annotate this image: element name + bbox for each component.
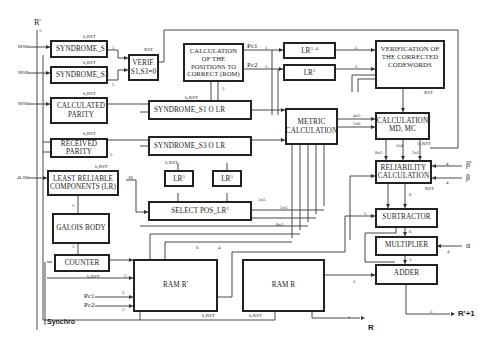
bus-width-label: 5 [222,86,225,91]
beta-label: β [466,173,470,182]
h-rst-label: h,RST [165,160,178,165]
bus-width-label: 5 [112,45,115,50]
bus-width-label: 6 [409,192,412,197]
pc2-input-label: Pc2 [84,301,95,309]
bus-width-label: 5 [112,82,115,87]
bus-width-label: 5x6 [353,121,361,126]
msb-label-3: MSB [18,101,29,106]
bus-width-label: 4 [446,180,449,185]
beta-prime-label: β' [466,160,472,169]
bus-width-label: 5 [122,307,125,312]
lr-3-right-label: LR3 [221,174,233,184]
bus-width-label: 5 [122,290,125,295]
bus-width-label: 5 [124,273,127,278]
calculated-parity-label: CALCULATED PARITY [56,102,106,119]
bus-width-label: 5 [72,203,75,208]
calculated-parity-block: CALCULATED PARITY [50,97,108,124]
rst-label: RST [144,47,153,52]
syndrome-s3-o-lr-label: SYNDROME_S3 O LR [154,142,225,150]
least-reliable-components-block: LEAST RELIABLE COMPONENTS (LR) [47,170,119,196]
lr-3plus4-block: LR3+4 [283,42,336,59]
verif-block: VERIF. S1,S3=0 [128,54,159,81]
r-output-label: R [368,323,374,332]
bus-width-label: 5 [364,211,367,216]
multiplier-label: MULTIPLIER [385,241,428,249]
r-prime-input-label: R' [34,18,41,27]
calculation-md-mc-label: CALCULATION MD, MC [377,117,428,134]
least-reliable-label: LEAST RELIABLE COMPONENTS (LR) [49,175,117,192]
syndrome-s1-block: SYNDROME_S1 [50,40,108,58]
bus-width-label: 6 [196,245,199,250]
bus-width-label: 5 [353,279,356,284]
lr-3-left-label: LR3 [173,174,185,184]
pc1-input-label: Pc1 [84,292,95,300]
pc1-output-label: Pc1 [247,42,258,50]
syndrome-s3-o-lr-block: SYNDROME_S3 O LR [148,136,252,156]
syndrome-s1-o-lr-label: SYNDROME_S1 O LR [154,106,225,114]
bus-width-label: 8x5 [375,150,383,155]
counter-block: COUNTER [54,254,110,272]
h-rst-label: h,RST [83,91,96,96]
lr-3-left-block: LR3 [164,170,194,187]
h-rst-label: h,RST [185,95,198,100]
synchro-label: Synchro [47,318,75,325]
select-pos-lr-label: SELECT POS_LR3 [171,206,229,216]
calculation-md-mc-block: CALCULATION MD, MC [375,112,430,140]
syndrome-s3-label: SYNDROME_S3 [56,71,109,79]
lr-3plus4-label: LR3+4 [301,46,318,56]
reliability-calculation-label: RELIABILITY CALCULATION [377,164,430,181]
msb-label-2: MSB [18,70,29,75]
lr-3-top-block: LR3 [283,64,336,81]
galois-body-block: GALOIS BODY [52,213,110,244]
h-rst-label: h,RST [95,164,108,169]
bus-width-label: 5 [355,64,358,69]
bus-width-label: 5 [39,28,42,33]
syndrome-s1-o-lr-block: SYNDROME_S1 O LR [148,100,252,120]
bus-width-label: 4 [447,249,450,254]
h-rst-label: h,RST [83,131,96,136]
calc-positions-rom-block: CALCULATION OF THE POSITIONS TO CORRECT … [183,43,244,82]
bus-width-label: 5 [348,315,351,320]
ram-r-label: RAM R [272,281,295,289]
bus-width-label: 5x5 [258,197,266,202]
msb-label-1: MSB [18,44,29,49]
bus-width-label: 5 [110,152,113,157]
syndrome-s3-block: SYNDROME_S3 [50,66,108,84]
bus-width-label: 4 [218,245,221,250]
rst-label: RST [425,186,434,191]
bus-width-label: 36 [128,175,133,180]
lsb-label: 4LSB [17,175,29,180]
bus-width-label: 2x5 [412,150,420,155]
calc-positions-label: CALCULATION OF THE POSITIONS TO CORRECT … [185,47,242,77]
metric-calculation-label: METRIC CALCULATION [286,118,337,135]
verification-codewords-label: VERIFICATION OF THE CORRECTED CODEWORDS [377,45,443,68]
h-rst-label: h,RST [83,34,96,39]
received-parity-block: RECEIVED PARITY [50,138,108,158]
ram-r-prime-block: RAM R' [133,259,218,312]
h-rst-label: h,RST [202,313,215,318]
subtractor-block: SUBTRACTOR [375,208,438,228]
adder-label: ADDER [394,269,419,277]
verification-codewords-block: VERIFICATION OF THE CORRECTED CODEWORDS [375,40,445,89]
h-rst-label: h,RST [83,60,96,65]
alpha-label: α [466,241,470,250]
adder-block: ADDER [375,264,438,285]
h-rst-label: h,RST [249,313,262,318]
bus-width-label: 5 [265,64,268,69]
bus-width-label: 5x5 [280,205,288,210]
received-parity-label: RECEIVED PARITY [52,140,106,157]
bus-width-label: 6 [409,229,412,234]
bus-width-label: 8x2 [276,222,284,227]
counter-label: COUNTER [65,259,100,267]
reliability-calculation-block: RELIABILITY CALCULATION [375,160,432,184]
metric-calculation-block: METRIC CALCULATION [285,108,338,145]
select-pos-lr-block: SELECT POS_LR3 [148,201,252,221]
bus-width-label: 4 [446,161,449,166]
rst-label: RST [424,90,433,95]
ram-r-prime-label: RAM R' [163,281,188,289]
multiplier-block: MULTIPLIER [375,236,438,256]
bus-width-label: 2x6 [396,143,404,148]
lr-3-top-label: LR3 [304,68,316,78]
h-rst-label: h,RST [418,141,431,146]
h-rst-label: h,RST [87,274,100,279]
